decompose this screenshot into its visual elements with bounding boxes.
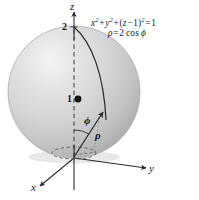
x-axis-label: x: [31, 182, 36, 193]
figure-canvas: [0, 0, 199, 200]
phi-angle-label: ϕ: [84, 115, 90, 126]
z-axis-label: z: [70, 1, 74, 12]
sphere-center-dot: [75, 96, 82, 103]
equation-spherical: ρ=2cosϕ: [108, 28, 146, 40]
eq2-phi: ϕ: [139, 28, 146, 38]
z-value-two-label: 2: [62, 22, 67, 32]
eq-rhs: 1: [151, 18, 156, 28]
rho-length-label: ρ: [95, 130, 101, 141]
eq2-cos: cos: [124, 28, 139, 38]
spherical-coordinates-figure: z y x 2 1 ϕ ρ x2+y2+(z−1)2=1 ρ=2cosϕ: [0, 0, 199, 200]
z-value-one-label: 1: [67, 94, 72, 104]
eq2-rho: ρ: [108, 28, 113, 38]
y-axis-label: y: [149, 163, 154, 174]
